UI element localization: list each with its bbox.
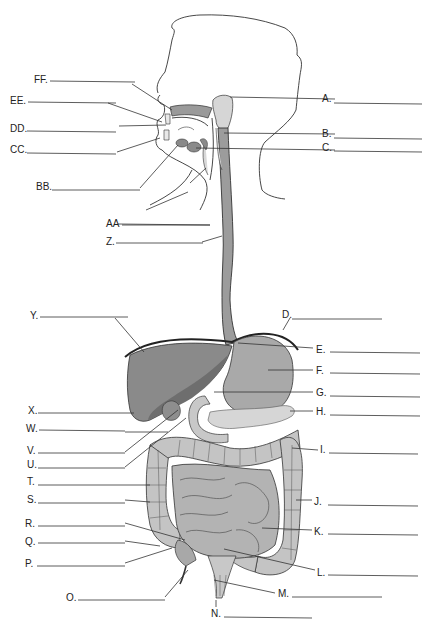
label-AA: AA xyxy=(106,218,210,229)
svg-text:CC.: CC. xyxy=(10,144,27,155)
svg-text:M.: M. xyxy=(278,588,289,599)
label-I: I. xyxy=(320,444,418,455)
svg-text:EE.: EE. xyxy=(10,95,26,106)
svg-text:W.: W. xyxy=(26,423,38,434)
label-S: S. xyxy=(27,494,125,505)
svg-text:V.: V. xyxy=(27,445,36,456)
svg-text:F.: F. xyxy=(316,365,324,376)
svg-text:S.: S. xyxy=(27,494,36,505)
svg-text:Z.: Z. xyxy=(106,236,115,247)
label-CC: CC. xyxy=(10,144,116,155)
digestive-system-diagram: A. B. C. D. E. F. G. H. I. J. K. L. xyxy=(0,0,429,629)
svg-text:DD.: DD. xyxy=(10,123,27,134)
svg-text:Y.: Y. xyxy=(30,310,38,321)
svg-text:L.: L. xyxy=(317,567,325,578)
svg-text:U.: U. xyxy=(27,459,37,470)
label-A: A. xyxy=(322,93,422,104)
label-D: D. xyxy=(282,309,382,320)
label-Z: Z. xyxy=(106,236,203,247)
appendix xyxy=(180,566,186,584)
label-O: O. xyxy=(66,592,165,603)
label-N: N. xyxy=(211,608,312,619)
label-V: V. xyxy=(27,445,125,456)
svg-text:BB.: BB. xyxy=(36,181,52,192)
svg-text:Q.: Q. xyxy=(25,536,36,547)
svg-text:X.: X. xyxy=(28,405,37,416)
label-U: U. xyxy=(27,459,125,470)
label-P: P. xyxy=(25,558,125,569)
svg-text:A.: A. xyxy=(322,93,331,104)
label-R: R. xyxy=(25,518,125,529)
mouth-region xyxy=(164,105,213,180)
label-FF: FF. xyxy=(34,74,135,85)
svg-text:P.: P. xyxy=(25,558,33,569)
label-M: M. xyxy=(278,588,382,599)
svg-text:J.: J. xyxy=(314,496,322,507)
stomach xyxy=(223,336,293,415)
rectum xyxy=(208,556,236,598)
svg-text:R.: R. xyxy=(25,518,35,529)
svg-text:N.: N. xyxy=(211,608,221,619)
svg-text:H.: H. xyxy=(316,406,326,417)
label-E: E. xyxy=(316,344,420,355)
svg-text:E.: E. xyxy=(316,344,325,355)
small-intestine xyxy=(172,464,279,558)
svg-text:AA: AA xyxy=(106,218,120,229)
label-H: H. xyxy=(316,406,420,417)
label-F: F. xyxy=(316,365,420,376)
label-J: J. xyxy=(314,496,418,507)
svg-text:C.: C. xyxy=(322,142,332,153)
svg-text:T.: T. xyxy=(27,476,35,487)
label-BB: BB. xyxy=(36,181,140,192)
label-G: G. xyxy=(316,387,420,398)
label-EE: EE. xyxy=(10,95,116,106)
label-DD: DD. xyxy=(10,123,116,134)
label-T: T. xyxy=(27,476,125,487)
svg-text:K.: K. xyxy=(314,526,323,537)
label-B: B. xyxy=(322,128,422,139)
parotid-gland xyxy=(213,95,233,129)
label-L: L. xyxy=(317,567,418,578)
label-W: W. xyxy=(26,423,125,434)
label-K: K. xyxy=(314,526,418,537)
svg-text:G.: G. xyxy=(316,387,327,398)
submandibular-gland xyxy=(187,142,201,152)
svg-text:FF.: FF. xyxy=(34,74,48,85)
svg-text:I.: I. xyxy=(320,444,326,455)
label-Q: Q. xyxy=(25,536,125,547)
svg-text:O.: O. xyxy=(66,592,77,603)
label-C: C. xyxy=(322,142,422,153)
svg-text:B.: B. xyxy=(322,128,331,139)
svg-text:D.: D. xyxy=(282,309,292,320)
pancreas xyxy=(208,406,294,429)
label-X: X. xyxy=(28,405,125,416)
label-Y: Y. xyxy=(30,310,128,321)
